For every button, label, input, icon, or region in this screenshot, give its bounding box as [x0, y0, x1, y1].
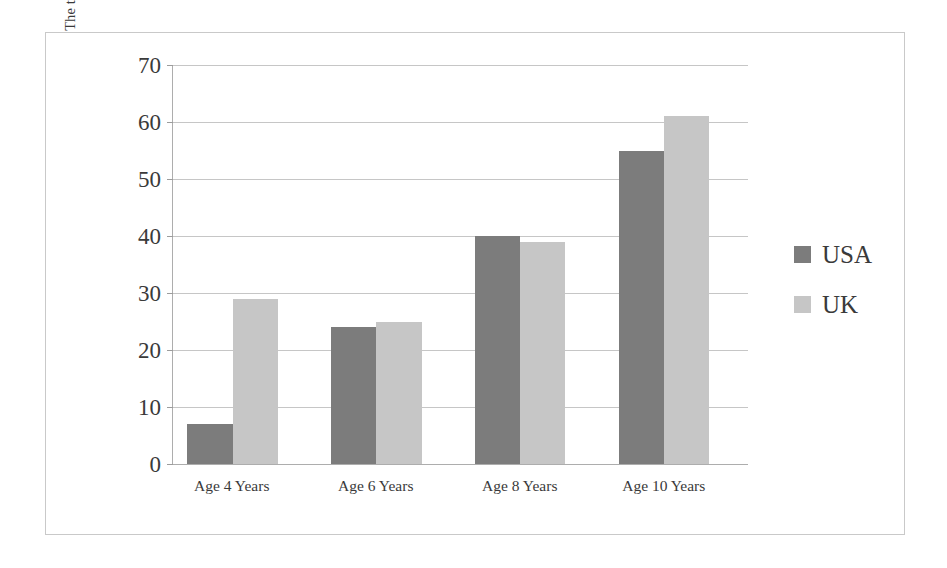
x-axis-label: Age 10 Years	[622, 477, 705, 495]
y-axis-tick	[167, 464, 173, 465]
bar-uk-0	[233, 299, 278, 464]
legend-label: USA	[822, 242, 872, 267]
legend-item-usa[interactable]: USA	[794, 229, 904, 279]
legend-label: UK	[822, 292, 858, 317]
bar-group	[317, 65, 461, 464]
plot-area: 010203040506070	[172, 65, 748, 465]
chart-legend: USAUK	[794, 229, 904, 329]
y-axis-tick-label: 20	[138, 339, 161, 362]
y-axis-tick-label: 30	[138, 282, 161, 305]
bars-layer	[173, 65, 748, 464]
y-axis-tick-label: 60	[138, 111, 161, 134]
bar-chart: The total number of different plants nam…	[45, 32, 905, 535]
bar-group	[461, 65, 605, 464]
y-axis-tick-label: 70	[138, 54, 161, 77]
legend-swatch-icon	[794, 296, 811, 313]
x-axis-label: Age 8 Years	[482, 477, 557, 495]
legend-swatch-icon	[794, 246, 811, 263]
bar-uk-3	[664, 116, 709, 464]
x-axis-labels: Age 4 YearsAge 6 YearsAge 8 YearsAge 10 …	[172, 477, 748, 517]
x-axis-label: Age 4 Years	[194, 477, 269, 495]
x-axis-label: Age 6 Years	[338, 477, 413, 495]
bar-usa-2	[475, 236, 520, 464]
y-axis-tick-label: 10	[138, 396, 161, 419]
y-axis-tick-label: 50	[138, 168, 161, 191]
y-axis-tick-label: 0	[150, 453, 162, 476]
bar-usa-0	[187, 424, 232, 464]
bar-group	[173, 65, 317, 464]
y-axis-title-text: The total number of different plants nam…	[61, 0, 98, 33]
bar-group	[604, 65, 748, 464]
bar-uk-2	[520, 242, 565, 464]
bar-usa-3	[619, 151, 664, 465]
bar-usa-1	[331, 327, 376, 464]
y-axis-title: The total number of different plants nam…	[54, 0, 106, 33]
legend-item-uk[interactable]: UK	[794, 279, 904, 329]
bar-uk-1	[376, 322, 421, 465]
y-axis-tick-label: 40	[138, 225, 161, 248]
plot-wrapper: 010203040506070	[172, 65, 748, 465]
